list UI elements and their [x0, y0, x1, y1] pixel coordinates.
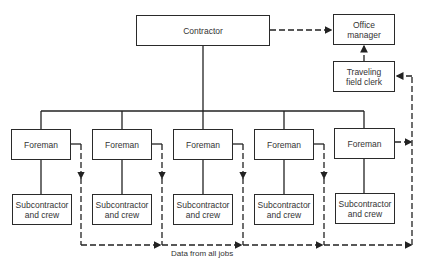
subcontractor-label-line1: Subcontractor — [177, 200, 230, 210]
subcontractor-label-line1: Subcontractor — [258, 200, 311, 210]
subcontractor-label-line2: and crew — [348, 209, 383, 219]
office-manager-box: Office manager — [333, 14, 395, 45]
subcontractor-label-line1: Subcontractor — [339, 199, 392, 209]
subcontractor-label-line2: and crew — [186, 210, 221, 220]
subcontractor-label-line1: Subcontractor — [16, 200, 69, 210]
foreman-box: Foreman — [173, 129, 233, 160]
subcontractor-box: Subcontractor and crew — [254, 194, 314, 225]
subcontractor-label-line1: Subcontractor — [96, 200, 149, 210]
subcontractor-box: Subcontractor and crew — [173, 194, 233, 225]
subcontractor-box: Subcontractor and crew — [335, 193, 395, 224]
foreman-box: Foreman — [334, 128, 395, 159]
foreman-label: Foreman — [24, 140, 58, 150]
foreman-box: Foreman — [254, 129, 314, 160]
subcontractor-label-line2: and crew — [25, 210, 60, 220]
contractor-label: Contractor — [183, 26, 223, 36]
contractor-box: Contractor — [136, 15, 270, 46]
foreman-label: Foreman — [267, 140, 301, 150]
subcontractor-box: Subcontractor and crew — [92, 194, 152, 225]
office-manager-label-line2: manager — [347, 30, 381, 40]
subcontractor-label-line2: and crew — [267, 210, 302, 220]
data-flow-label: Data from all jobs — [171, 249, 233, 258]
foreman-box: Foreman — [11, 129, 71, 160]
subcontractor-box: Subcontractor and crew — [12, 194, 72, 225]
foreman-label: Foreman — [186, 140, 220, 150]
office-manager-label-line1: Office — [353, 20, 375, 30]
subcontractor-label-line2: and crew — [105, 210, 140, 220]
foreman-label: Foreman — [105, 140, 139, 150]
foreman-label: Foreman — [347, 139, 381, 149]
field-clerk-label-line1: Traveling — [347, 67, 382, 77]
traveling-field-clerk-box: Traveling field clerk — [333, 61, 395, 92]
field-clerk-label-line2: field clerk — [346, 77, 382, 87]
foreman-box: Foreman — [92, 129, 152, 160]
